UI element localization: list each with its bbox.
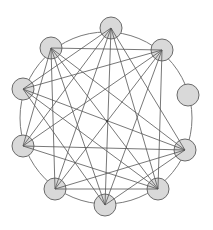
edge-upper-right-bottom-left — [55, 50, 162, 189]
edge-left-upper-bottom-right — [23, 89, 158, 189]
edge-upper-left-upper-right — [51, 48, 162, 50]
edge-upper-left-bottom-right — [51, 48, 158, 189]
center-dot — [106, 120, 108, 122]
edge-upper-left-bottom-left — [51, 48, 55, 189]
edge-top-left-upper — [23, 28, 111, 89]
network-graph — [0, 0, 213, 230]
edge-top-left-lower — [23, 28, 111, 146]
node-right — [177, 84, 199, 106]
edge-upper-left-right-lower — [51, 48, 185, 150]
edge-top-bottom — [105, 28, 111, 205]
